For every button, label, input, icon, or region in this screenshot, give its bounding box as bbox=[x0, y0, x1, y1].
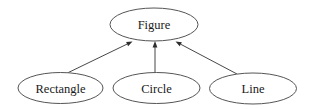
arrowhead-icon bbox=[126, 42, 132, 47]
arrowhead-icon bbox=[176, 42, 182, 47]
node-rectangle: Rectangle bbox=[18, 73, 103, 104]
node-line: Line bbox=[210, 73, 297, 104]
node-line-label: Line bbox=[242, 82, 265, 96]
node-figure: Figure bbox=[110, 8, 198, 41]
arrowhead-icon bbox=[153, 41, 158, 47]
edge-line bbox=[68, 44, 127, 73]
diagram-canvas: Figure Rectangle Circle Line bbox=[0, 0, 314, 109]
node-rectangle-label: Rectangle bbox=[36, 82, 86, 96]
edge-rectangle-to-figure bbox=[68, 42, 133, 73]
node-circle: Circle bbox=[113, 73, 200, 104]
node-circle-label: Circle bbox=[141, 82, 172, 96]
node-figure-label: Figure bbox=[138, 18, 171, 32]
edge-line-to-figure bbox=[176, 42, 238, 75]
edge-line bbox=[181, 44, 237, 74]
inheritance-diagram: Figure Rectangle Circle Line bbox=[0, 0, 314, 109]
edge-circle-to-figure bbox=[153, 41, 158, 73]
